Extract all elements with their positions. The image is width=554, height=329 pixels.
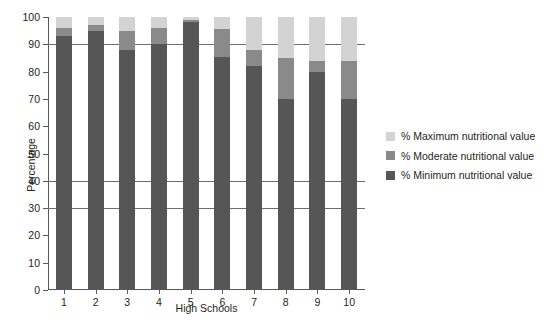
legend-label: % Maximum nutritional value bbox=[401, 131, 535, 142]
bar-stack-1 bbox=[56, 17, 72, 290]
bar-segment bbox=[56, 28, 72, 36]
legend-item-2[interactable]: % Minimum nutritional value bbox=[386, 170, 535, 181]
bar-segment bbox=[119, 50, 135, 290]
x-tick-2 bbox=[96, 290, 97, 294]
bar-segment bbox=[88, 17, 104, 25]
bar-segment bbox=[88, 25, 104, 30]
bar-segment bbox=[278, 58, 294, 99]
x-tick-6 bbox=[222, 290, 223, 294]
bar-stack-8 bbox=[278, 17, 294, 290]
plot-area: 0102030405060708090100 12345678910 bbox=[48, 17, 365, 290]
y-axis-line bbox=[48, 17, 49, 290]
x-axis-title: High Schools bbox=[48, 302, 365, 314]
bar-stack-3 bbox=[119, 17, 135, 290]
x-tick-10 bbox=[349, 290, 350, 294]
y-tick-label-90: 90 bbox=[28, 39, 40, 50]
legend-swatch-icon bbox=[386, 151, 395, 160]
bar-segment bbox=[309, 17, 325, 61]
chart-legend: % Maximum nutritional value% Moderate nu… bbox=[386, 131, 535, 181]
y-tick-label-80: 80 bbox=[28, 66, 40, 77]
y-tick-40 bbox=[43, 181, 48, 182]
y-tick-90 bbox=[43, 44, 48, 45]
bar-segment bbox=[56, 36, 72, 290]
y-tick-60 bbox=[43, 126, 48, 127]
y-tick-20 bbox=[43, 235, 48, 236]
bar-segment bbox=[214, 17, 230, 29]
y-tick-label-60: 60 bbox=[28, 121, 40, 132]
y-tick-0 bbox=[43, 290, 48, 291]
bar-stack-9 bbox=[309, 17, 325, 290]
y-tick-10 bbox=[43, 263, 48, 264]
legend-item-0[interactable]: % Maximum nutritional value bbox=[386, 131, 535, 142]
y-tick-label-70: 70 bbox=[28, 94, 40, 105]
y-tick-50 bbox=[43, 154, 48, 155]
bar-segment bbox=[309, 61, 325, 72]
y-tick-80 bbox=[43, 72, 48, 73]
legend-swatch-icon bbox=[386, 132, 395, 141]
bar-segment bbox=[246, 17, 262, 50]
bar-segment bbox=[119, 31, 135, 50]
y-tick-label-100: 100 bbox=[22, 12, 40, 23]
bar-segment bbox=[341, 17, 357, 61]
bar-stack-5 bbox=[183, 17, 199, 290]
bar-segment bbox=[88, 31, 104, 290]
bar-segment bbox=[246, 50, 262, 66]
legend-label: % Minimum nutritional value bbox=[401, 170, 532, 181]
bar-segment bbox=[278, 99, 294, 290]
y-tick-70 bbox=[43, 99, 48, 100]
bar-segment bbox=[341, 99, 357, 290]
bar-stack-10 bbox=[341, 17, 357, 290]
legend-swatch-icon bbox=[386, 171, 395, 180]
y-tick-label-0: 0 bbox=[34, 285, 40, 296]
bar-stack-2 bbox=[88, 17, 104, 290]
bar-stack-4 bbox=[151, 17, 167, 290]
bar-segment bbox=[214, 29, 230, 56]
x-tick-8 bbox=[286, 290, 287, 294]
y-tick-label-20: 20 bbox=[28, 230, 40, 241]
stacked-bar-chart: Percentage 0102030405060708090100 123456… bbox=[0, 0, 554, 329]
x-tick-3 bbox=[127, 290, 128, 294]
y-tick-label-50: 50 bbox=[28, 148, 40, 159]
y-tick-30 bbox=[43, 208, 48, 209]
x-tick-1 bbox=[64, 290, 65, 294]
y-tick-100 bbox=[43, 17, 48, 18]
x-tick-5 bbox=[191, 290, 192, 294]
bar-segment bbox=[309, 72, 325, 290]
bar-segment bbox=[341, 61, 357, 99]
bar-segment bbox=[119, 17, 135, 31]
bar-segment bbox=[183, 20, 199, 23]
y-tick-label-40: 40 bbox=[28, 176, 40, 187]
y-tick-label-10: 10 bbox=[28, 257, 40, 268]
bar-segment bbox=[151, 28, 167, 44]
bar-segment bbox=[183, 22, 199, 290]
x-tick-9 bbox=[317, 290, 318, 294]
x-tick-4 bbox=[159, 290, 160, 294]
bar-segment bbox=[151, 17, 167, 28]
y-tick-label-30: 30 bbox=[28, 203, 40, 214]
bar-segment bbox=[151, 44, 167, 290]
legend-item-1[interactable]: % Moderate nutritional value bbox=[386, 151, 535, 162]
bar-segment bbox=[183, 17, 199, 20]
bar-stack-6 bbox=[214, 17, 230, 290]
bar-segment bbox=[278, 17, 294, 58]
x-tick-7 bbox=[254, 290, 255, 294]
bar-segment bbox=[214, 57, 230, 290]
bar-segment bbox=[246, 66, 262, 290]
legend-label: % Moderate nutritional value bbox=[401, 151, 534, 162]
bar-segment bbox=[56, 17, 72, 28]
bar-stack-7 bbox=[246, 17, 262, 290]
